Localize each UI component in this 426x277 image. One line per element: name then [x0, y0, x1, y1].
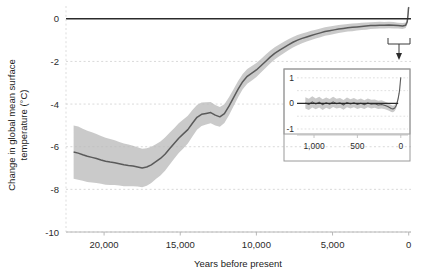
y-tick-label: 0	[54, 13, 59, 24]
y-tick-label: -2	[51, 56, 59, 67]
y-tick-label: -10	[45, 227, 59, 238]
x-tick-label: 0	[406, 239, 411, 250]
x-tick-label: 15,000	[166, 239, 195, 250]
inset-x-tick-labels: 1,0005000	[303, 141, 403, 151]
inset-y-tick-label: -1	[286, 124, 294, 134]
bracket-annotation	[388, 38, 410, 60]
climate-chart: 20,00015,00010,0005,0000 0-2-4-6-8-10 1,…	[0, 0, 426, 277]
figure-container: 20,00015,00010,0005,0000 0-2-4-6-8-10 1,…	[0, 0, 426, 277]
y-tick-label: -4	[51, 99, 59, 110]
x-tick-label: 10,000	[242, 239, 271, 250]
inset-panel: 1,0005000 10-1	[284, 69, 410, 161]
y-tick-label: -8	[51, 184, 59, 195]
inset-x-tick-label: 1,000	[303, 141, 325, 151]
x-tick-label: 5,000	[321, 239, 345, 250]
inset-x-tick-label: 0	[398, 141, 403, 151]
inset-axis	[297, 135, 408, 138]
inset-y-tick-label: 1	[289, 73, 294, 83]
x-tick-labels: 20,00015,00010,0005,0000	[90, 239, 412, 250]
inset-y-tick-label: 0	[289, 98, 294, 108]
y-tick-labels: 0-2-4-6-8-10	[45, 13, 59, 237]
y-axis-title: Change in global mean surfacetemperature…	[6, 59, 29, 191]
inset-x-tick-label: 500	[350, 141, 364, 151]
x-axis-title: Years before present	[194, 258, 282, 269]
x-tick-label: 20,000	[90, 239, 119, 250]
y-tick-label: -6	[51, 141, 59, 152]
